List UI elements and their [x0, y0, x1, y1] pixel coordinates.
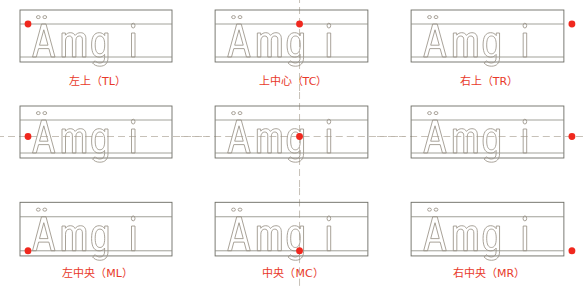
umlaut-dots-dot [238, 112, 242, 115]
alignment-grid: 左上（TL）上中心（TC）右上（TR）左中央（ML）中央（MC）右中央（MR）左… [0, 0, 587, 291]
glyph-i [327, 33, 331, 57]
anchor-point-dot [25, 133, 32, 140]
alignment-cell-tl: 左上（TL） [0, 0, 195, 96]
glyph-A-umlaut [40, 126, 49, 141]
glyph-g [95, 36, 105, 54]
glyph-m [62, 226, 86, 251]
glyph-g [92, 129, 108, 163]
glyph-g [483, 129, 499, 163]
umlaut-dots-dot [36, 112, 40, 115]
anchor-point-dot [25, 21, 32, 28]
sample-text-outline [33, 16, 136, 67]
alignment-diagram-l [0, 192, 195, 291]
glyph-m [62, 33, 86, 57]
glyph-A-umlaut [431, 30, 440, 45]
glyph-g [287, 33, 303, 66]
glyph-g [95, 229, 105, 247]
glyph-m [257, 226, 281, 251]
glyph-g [287, 226, 303, 261]
glyph-i [523, 226, 527, 251]
alignment-diagram-c [195, 192, 391, 291]
alignment-cell-mc: 中央（MC） [195, 96, 391, 192]
glyph-g [483, 33, 499, 66]
glyph-i [132, 33, 136, 57]
glyph-g [95, 132, 105, 150]
glyph-m [453, 226, 477, 251]
sample-text-outline [228, 16, 331, 67]
glyph-m [257, 129, 281, 153]
alignment-cell-r: 右（R） [391, 192, 587, 291]
glyph-m [257, 33, 281, 57]
glyph-i [327, 226, 331, 251]
glyph-i [523, 33, 527, 57]
alignment-diagram-mr [391, 96, 587, 192]
umlaut-dots-dot [232, 208, 236, 211]
anchor-point-dot [296, 21, 303, 28]
glyph-g [487, 229, 497, 247]
glyph-A-umlaut [235, 223, 244, 239]
alignment-cell-tc: 上中心（TC） [195, 0, 391, 96]
umlaut-dots-dot [238, 16, 242, 19]
glyph-m [453, 33, 477, 57]
umlaut-dots-dot [36, 16, 40, 19]
glyph-g [487, 36, 497, 54]
glyph-m [62, 129, 86, 153]
alignment-label-tc: 上中心（TC） [195, 72, 391, 88]
alignment-cell-l: 左（L） [0, 192, 195, 291]
glyph-i [327, 129, 331, 153]
umlaut-dots-dot [43, 112, 47, 115]
umlaut-dots-dot [434, 16, 438, 19]
anchor-point-dot [25, 247, 32, 254]
anchor-point-dot [296, 133, 303, 140]
alignment-cell-tr: 右上（TR） [391, 0, 587, 96]
alignment-cell-c: 中心（C） [195, 192, 391, 291]
alignment-cell-ml: 左中央（ML） [0, 96, 195, 192]
umlaut-dots-dot [434, 208, 438, 211]
sample-text-outline [33, 208, 136, 260]
alignment-cell-mr: 右中央（MR） [391, 96, 587, 192]
umlaut-dots-dot [428, 208, 432, 211]
umlaut-dots-dot [232, 112, 236, 115]
glyph-A-umlaut [40, 223, 49, 239]
glyph-m [453, 129, 477, 153]
anchor-point-dot [569, 133, 576, 140]
alignment-label-tr: 右上（TR） [391, 72, 587, 88]
umlaut-dots-dot [232, 16, 236, 19]
glyph-g [92, 33, 108, 66]
glyph-A-umlaut [40, 30, 49, 45]
alignment-diagram-r [391, 192, 587, 291]
umlaut-dots-dot [238, 208, 242, 211]
alignment-diagram-mc [195, 96, 391, 192]
glyph-i [523, 129, 527, 153]
glyph-A-umlaut [235, 30, 244, 45]
glyph-g [92, 226, 108, 261]
umlaut-dots-dot [428, 112, 432, 115]
sample-text-outline [424, 16, 527, 67]
glyph-g [483, 226, 499, 261]
anchor-point-dot [569, 21, 576, 28]
anchor-point-dot [296, 247, 303, 254]
glyph-i [132, 129, 136, 153]
anchor-point-dot [569, 247, 576, 254]
glyph-g [487, 132, 497, 150]
glyph-A-umlaut [235, 126, 244, 141]
sample-text-outline [424, 208, 527, 260]
glyph-g [291, 229, 301, 247]
glyph-A-umlaut [431, 223, 440, 239]
umlaut-dots-dot [428, 16, 432, 19]
glyph-A-umlaut [431, 126, 440, 141]
umlaut-dots-dot [43, 16, 47, 19]
sample-text-outline [228, 208, 331, 260]
umlaut-dots-dot [43, 208, 47, 211]
umlaut-dots-dot [434, 112, 438, 115]
umlaut-dots-dot [36, 208, 40, 211]
glyph-i [132, 226, 136, 251]
alignment-label-tl: 左上（TL） [0, 72, 195, 88]
glyph-g [291, 36, 301, 54]
alignment-diagram-ml [0, 96, 195, 192]
